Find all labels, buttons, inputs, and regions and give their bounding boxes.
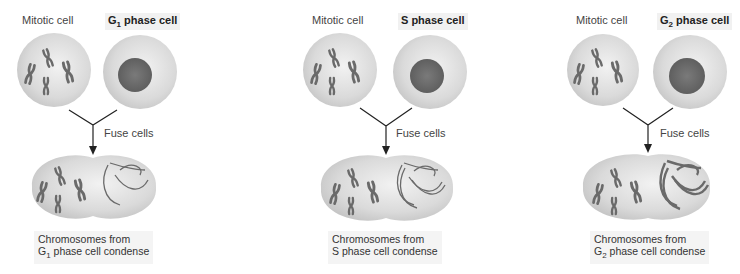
panel-g1: Mitotic cell G1 phase cell Fuse cells Ch… [0, 0, 260, 274]
fuse-cells-label: Fuse cells [396, 127, 446, 139]
mitotic-cell-label: Mitotic cell [22, 14, 73, 26]
panel-g2: Mitotic cell G2 phase cell Fuse cells Ch… [540, 0, 740, 274]
phase-cell-label: G1 phase cell [105, 13, 180, 30]
mitotic-cell-label: Mitotic cell [312, 14, 363, 26]
arrow-head-icon [644, 144, 652, 153]
fuse-cells-label: Fuse cells [104, 127, 154, 139]
panel-s: Mitotic cell S phase cell Fuse cells Chr… [290, 0, 510, 274]
phase-cell-label: G2 phase cell [657, 13, 732, 30]
arrow-head-icon [382, 146, 390, 155]
fused-cell [32, 155, 156, 218]
mitotic-cell-label: Mitotic cell [576, 14, 627, 26]
fuse-cells-label: Fuse cells [660, 127, 710, 139]
result-caption: Chromosomes from S phase cell condense [328, 231, 442, 264]
result-caption: Chromosomes from G1 phase cell condense [34, 231, 153, 264]
result-caption: Chromosomes from G2 phase cell condense [590, 231, 709, 264]
phase-cell-label: S phase cell [398, 13, 468, 30]
g1-nucleus [118, 58, 152, 92]
arrow-head-icon [89, 146, 97, 155]
